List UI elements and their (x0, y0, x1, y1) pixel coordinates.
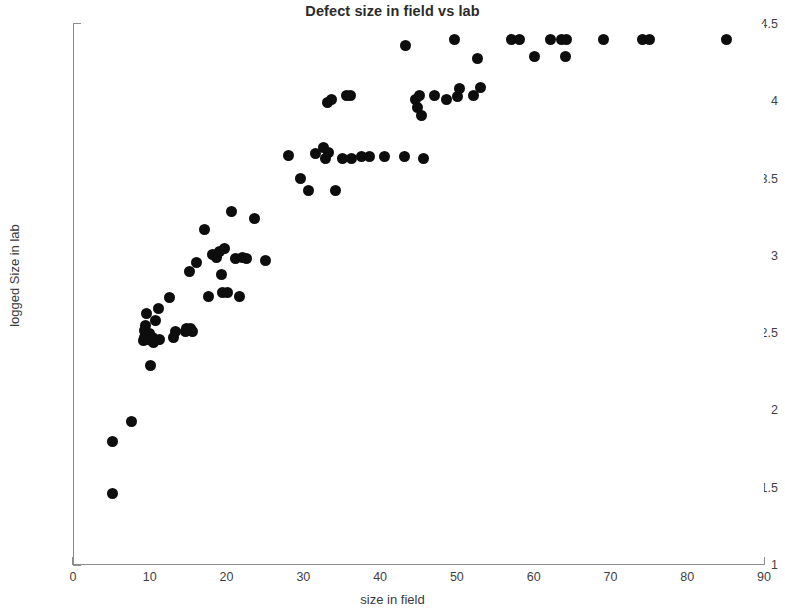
data-point (184, 266, 195, 277)
data-point (249, 213, 260, 224)
data-point (379, 151, 390, 162)
data-point (234, 291, 245, 302)
data-point (326, 94, 337, 105)
data-point (449, 34, 460, 45)
data-point (323, 147, 334, 158)
x-axis-label: size in field (0, 592, 785, 607)
data-point (514, 34, 525, 45)
data-point (260, 255, 271, 266)
y-axis-label: logged Size in lab (7, 176, 22, 376)
data-point (418, 153, 429, 164)
data-point (199, 224, 210, 235)
data-point (283, 150, 294, 161)
data-point (226, 206, 237, 217)
data-point (721, 34, 732, 45)
data-point (164, 292, 175, 303)
scatter-plot-figure: Defect size in field vs lab 4.543.532.52… (0, 0, 785, 616)
data-point (219, 243, 230, 254)
data-point (472, 53, 483, 64)
data-point (598, 34, 609, 45)
data-point (330, 185, 341, 196)
data-point (441, 94, 452, 105)
plot-area (73, 24, 764, 565)
x-tick-label-80: 80 (665, 570, 709, 584)
data-point (400, 40, 411, 51)
data-point (153, 303, 164, 314)
data-point (203, 291, 214, 302)
data-point (303, 185, 314, 196)
x-tick-label-10: 10 (128, 570, 172, 584)
data-point (545, 34, 556, 45)
data-point (216, 269, 227, 280)
data-point (154, 334, 165, 345)
data-point (295, 173, 306, 184)
data-point (150, 315, 161, 326)
data-point (345, 90, 356, 101)
data-point (561, 34, 572, 45)
data-point (529, 51, 540, 62)
data-point (187, 326, 198, 337)
data-point (399, 151, 410, 162)
data-point (145, 360, 156, 371)
x-tick-label-30: 30 (281, 570, 325, 584)
x-tick-label-50: 50 (435, 570, 479, 584)
x-tick-label-20: 20 (205, 570, 249, 584)
data-point (191, 257, 202, 268)
data-point (414, 90, 425, 101)
x-tick-label-90: 90 (742, 570, 785, 584)
data-point (429, 90, 440, 101)
data-point (560, 51, 571, 62)
data-point (416, 110, 427, 121)
data-point (454, 83, 465, 94)
data-point (126, 416, 137, 427)
data-point (222, 287, 233, 298)
chart-title: Defect size in field vs lab (0, 3, 785, 19)
data-point (241, 253, 252, 264)
x-tick-label-70: 70 (588, 570, 632, 584)
data-point (107, 436, 118, 447)
x-tick-label-60: 60 (512, 570, 556, 584)
data-point (475, 82, 486, 93)
x-tick-label-0: 0 (51, 570, 95, 584)
data-point (364, 151, 375, 162)
data-point (107, 488, 118, 499)
data-point (644, 34, 655, 45)
x-tick-label-40: 40 (358, 570, 402, 584)
